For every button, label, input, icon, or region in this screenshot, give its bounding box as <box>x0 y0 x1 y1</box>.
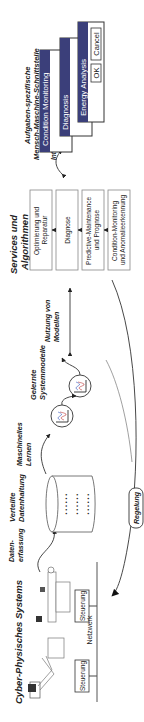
window-title-energy-analysis: Energy Analysis <box>79 59 88 116</box>
svg-text:Condition-Monitoring und: Condition-Monitoring und Anomalieerkennu… <box>111 195 127 265</box>
network-label: Netzwerk <box>86 615 93 645</box>
machine-learning-arrow <box>41 434 50 474</box>
svg-text:Cancel: Cancel <box>92 32 101 56</box>
distributed-storage-cylinder: Verteilte Datenhaltung • • • • • • • • •… <box>8 474 95 532</box>
cps-title: Cyber-Physisches Systems <box>13 580 24 704</box>
svg-text:Aufgaben-spezifische Men: Aufgaben-spezifische Mensch-Maschine-Sch… <box>23 48 41 160</box>
svg-text:OK: OK <box>92 68 101 79</box>
hmi-windows: Aufgaben-spezifische Mensch-Maschine-Sch… <box>23 22 104 160</box>
services-algorithms: Services und Algorithmen Optimierung und… <box>8 190 130 274</box>
svg-text:Services und Algorithmen: Services und Algorithmen <box>8 212 30 274</box>
model-icon-2 <box>69 375 91 397</box>
controller-label-1: Steuerung <box>79 661 87 691</box>
model-usage-label: Nutzung von Modellen <box>44 298 60 342</box>
data-capture-label: Daten- erfassung <box>8 528 25 562</box>
svg-text:• • • • • •: • • • • • • <box>74 494 80 515</box>
window-title-condition-monitoring: Condition Monitoring <box>41 73 50 146</box>
svg-text:Diagnose: Diagnose <box>64 216 72 244</box>
svg-text:Verteilte Datenhaltung: Verteilte Datenhaltung <box>8 474 26 522</box>
robot-arm-icon <box>28 638 64 698</box>
svg-text:• • • • • •: • • • • • • <box>85 494 91 515</box>
control-label: Regelung <box>133 491 141 524</box>
conveyor-machine-icon <box>36 567 70 622</box>
cyber-physical-system: Cyber-Physisches Systems Steuerung Steue… <box>13 562 97 704</box>
learned-models: Gelernte Systemmodelle <box>29 345 91 427</box>
diagram-canvas: Cyber-Physisches Systems Steuerung Steue… <box>0 0 144 722</box>
data-capture-arrow <box>38 530 55 572</box>
window-title-diagnosis: Diagnosis <box>61 95 70 130</box>
machine-learning-label: Maschinelles Lernen <box>16 420 32 466</box>
svg-text:• • • • • •: • • • • • • <box>63 494 69 515</box>
control-loop-branch <box>106 360 132 462</box>
control-loop-arrow <box>112 280 136 596</box>
svg-text:Gelernte Systemmodelle: Gelernte Systemmodelle <box>29 345 47 400</box>
model-icon-1 <box>51 405 73 427</box>
